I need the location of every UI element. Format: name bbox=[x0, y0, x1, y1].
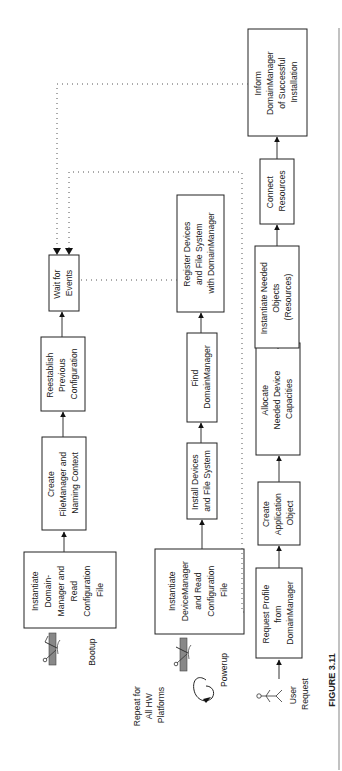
node-find-domain-mgr: Find DomainManager bbox=[187, 333, 217, 422]
user-actor-icon bbox=[257, 690, 282, 702]
repeat-label: Repeat for All HW Platforms bbox=[132, 684, 166, 727]
node-inst-needed-objs: Instantiate Needed Objects (Resources) bbox=[255, 246, 299, 348]
flow-diagram: Instantiate Domain- Manager and Read Con… bbox=[0, 0, 342, 771]
powerup-label: Powerup bbox=[219, 653, 229, 687]
node-allocate-caps: Allocate Needed Device Capacities bbox=[256, 343, 300, 455]
node-connect-resources: Connect Resources bbox=[260, 159, 294, 224]
bootup-switch-icon bbox=[43, 633, 60, 665]
node-wait-events: Wait for Events bbox=[49, 255, 79, 311]
node-reestablish: Reestablish Previous Configuration bbox=[41, 337, 85, 411]
svg-text:Register Devices and Fil: Register Devices and File System with Do… bbox=[182, 212, 216, 294]
figure-caption: FIGURE 3.11 bbox=[327, 653, 337, 707]
node-create-app-obj: Create Application Object bbox=[258, 482, 300, 545]
node-create-filemgr: Create FileManager and Naming Context bbox=[42, 437, 86, 530]
node-install-devices: Install Devices and File System bbox=[187, 443, 217, 519]
node-register-devices: Register Devices and File System with Do… bbox=[177, 195, 224, 312]
bootup-label: Bootup bbox=[87, 638, 97, 665]
user-request-label: User Request bbox=[288, 677, 310, 710]
node-request-profile: Request Profile from DomainManager bbox=[256, 568, 302, 658]
node-inst-domain-mgr: Instantiate Domain- Manager and Read Con… bbox=[24, 552, 116, 628]
node-inform-domain-mgr: Inform DomainManager of Successful Insta… bbox=[248, 29, 307, 136]
powerup-switch-icon bbox=[174, 638, 191, 671]
repeat-loop-icon bbox=[194, 678, 214, 703]
node-inst-device-mgr: Instantiate DeviceManager and Read Confi… bbox=[155, 549, 244, 634]
